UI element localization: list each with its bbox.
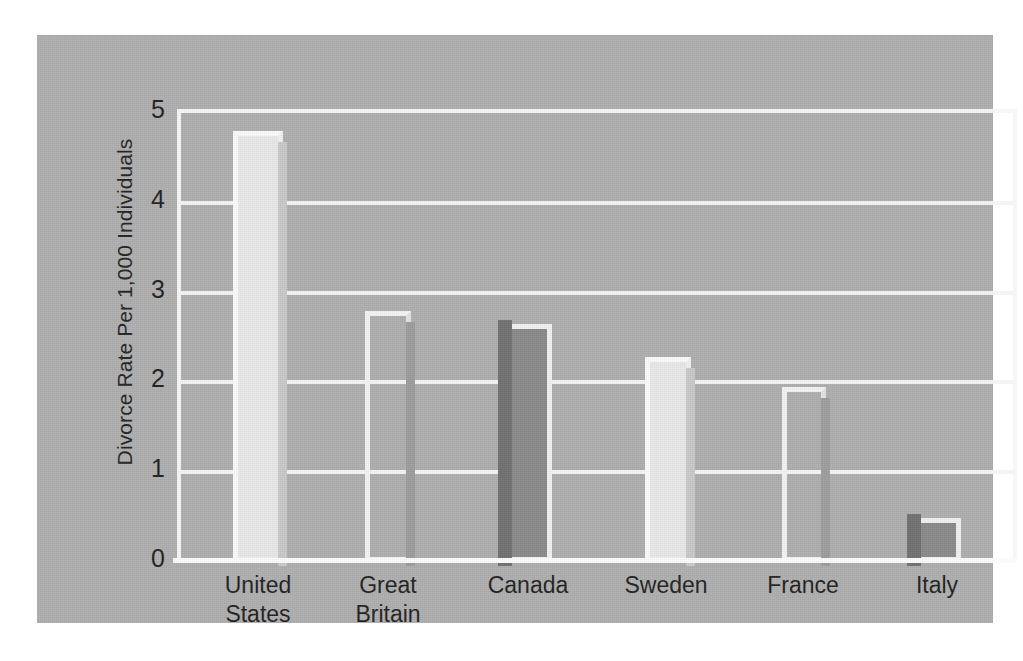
x-axis-label-line: Italy [837, 571, 1023, 600]
bar-sweden[interactable] [645, 357, 691, 562]
bar-france[interactable] [782, 387, 826, 562]
y-tick-label: 2 [125, 364, 165, 393]
bar-italy[interactable] [916, 518, 961, 562]
y-tick-label: 4 [125, 184, 165, 213]
bar-great-britain[interactable] [365, 311, 411, 562]
plot-area [177, 109, 1017, 562]
bar-united-states[interactable] [233, 131, 283, 562]
x-axis-label-italy: Italy [837, 571, 1023, 600]
x-axis-baseline [173, 558, 1017, 563]
bar-canada[interactable] [507, 324, 552, 562]
gridline-2 [181, 291, 1013, 295]
y-tick-label: 3 [125, 274, 165, 303]
gridline-3 [181, 380, 1013, 384]
y-tick-label: 5 [125, 95, 165, 124]
chart-figure-panel: Divorce Rate Per 1,000 Individuals 5 4 3… [37, 35, 993, 623]
y-tick-label: 0 [125, 544, 165, 573]
y-axis-tick-labels: 5 4 3 2 1 0 [125, 109, 165, 558]
gridline-4 [181, 470, 1013, 474]
x-axis-label-line: Britain [288, 600, 488, 629]
gridline-1 [181, 201, 1013, 205]
y-tick-label: 1 [125, 454, 165, 483]
chart-root: Divorce Rate Per 1,000 Individuals 5 4 3… [0, 0, 1023, 661]
